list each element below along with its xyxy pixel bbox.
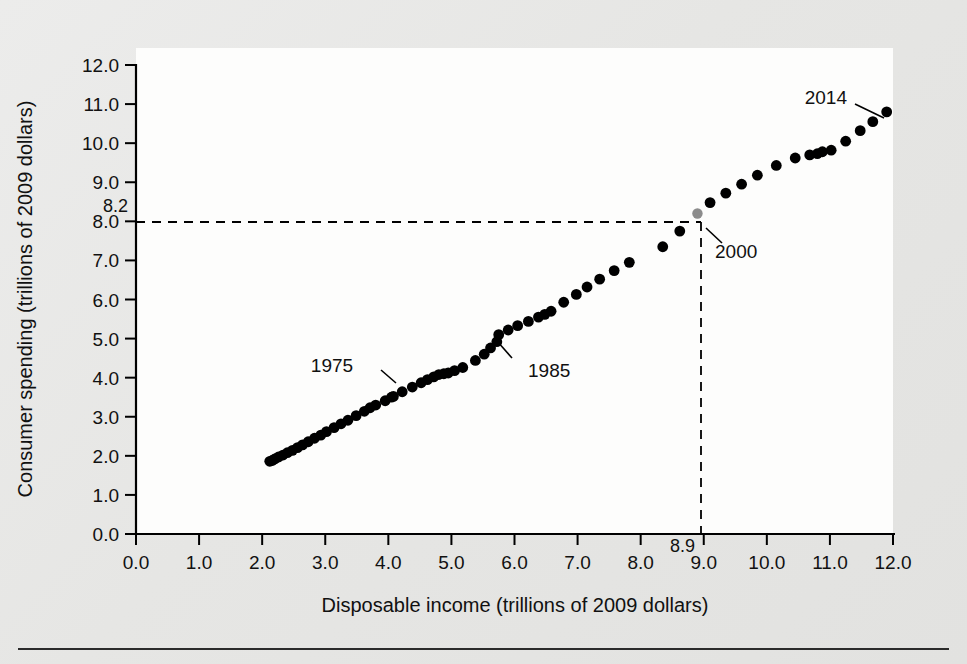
data-point [457, 362, 468, 373]
data-point [840, 136, 851, 147]
figure-container: 0.01.02.03.04.05.06.07.08.09.010.011.012… [0, 0, 967, 664]
y-tick-label: 9.0 [93, 172, 119, 193]
data-point [523, 316, 534, 327]
y-axis-title: Consumer spending (trillions of 2009 dol… [14, 101, 36, 498]
data-point [582, 282, 593, 293]
data-point [771, 160, 782, 171]
data-point [881, 107, 892, 118]
y-tick-label: 7.0 [93, 250, 119, 271]
data-point [674, 226, 685, 237]
data-point [752, 170, 763, 181]
y-tick-label: 10.0 [82, 133, 119, 154]
y-tick-label: 6.0 [93, 290, 119, 311]
x-tick-label: 8.0 [627, 552, 653, 573]
x-axis-ticks: 0.01.02.03.04.05.06.07.08.09.010.011.012… [123, 534, 912, 573]
data-point [546, 306, 557, 317]
x-tick-label: 1.0 [186, 552, 212, 573]
x-tick-label: 7.0 [564, 552, 590, 573]
annotation-label-2000: 2000 [715, 241, 757, 262]
x-tick-label: 12.0 [875, 552, 912, 573]
x-tick-label: 10.0 [748, 552, 785, 573]
y-tick-label: 2.0 [93, 446, 119, 467]
leader-line-2014 [855, 104, 884, 118]
annotation-label-2014: 2014 [805, 87, 848, 108]
x-tick-label: 3.0 [312, 552, 338, 573]
y-tick-label: 12.0 [82, 55, 119, 76]
y-tick-label: 11.0 [83, 94, 119, 115]
leader-line-1985 [497, 341, 512, 358]
x-reference-value-label: 8.9 [670, 536, 695, 556]
data-point [705, 197, 716, 208]
annotations-group: 1975 1985 2000 2014 [311, 87, 884, 383]
data-point [736, 179, 747, 190]
data-point [503, 325, 514, 336]
scatter-chart: 0.01.02.03.04.05.06.07.08.09.010.011.012… [0, 0, 967, 664]
data-point [493, 329, 504, 340]
data-point [855, 125, 866, 136]
reference-line-labels: 8.2 8.9 [103, 196, 695, 556]
bottom-divider-rule [18, 648, 949, 650]
x-tick-label: 6.0 [501, 552, 527, 573]
x-axis-title: Disposable income (trillions of 2009 dol… [322, 594, 709, 616]
y-tick-label: 1.0 [93, 485, 119, 506]
data-point-highlighted [692, 208, 702, 218]
data-point [867, 116, 878, 127]
x-tick-label: 4.0 [375, 552, 401, 573]
annotation-label-1975: 1975 [311, 355, 353, 376]
data-points-group [264, 107, 892, 467]
y-axis-ticks: 0.01.02.03.04.05.06.07.08.09.010.011.012… [82, 55, 136, 545]
data-point [826, 145, 837, 156]
data-point [790, 153, 801, 164]
data-point [624, 257, 635, 268]
data-point [571, 289, 582, 300]
x-tick-label: 11.0 [812, 552, 848, 573]
y-tick-label: 3.0 [93, 407, 119, 428]
data-point [609, 265, 620, 276]
y-reference-value-label: 8.2 [103, 196, 128, 216]
leader-line-1975 [381, 370, 396, 383]
data-point [397, 386, 408, 397]
data-point [657, 241, 668, 252]
axes-group [136, 64, 895, 534]
x-tick-label: 0.0 [123, 552, 149, 573]
y-tick-label: 5.0 [93, 329, 119, 350]
x-tick-label: 2.0 [249, 552, 275, 573]
data-point [594, 274, 605, 285]
data-point [470, 355, 481, 366]
y-tick-label: 0.0 [93, 524, 119, 545]
y-tick-label: 4.0 [93, 368, 119, 389]
data-point [512, 320, 523, 331]
data-point [370, 400, 381, 411]
data-point [558, 297, 569, 308]
annotation-label-1985: 1985 [528, 360, 570, 381]
data-point [720, 188, 731, 199]
x-tick-label: 5.0 [438, 552, 464, 573]
